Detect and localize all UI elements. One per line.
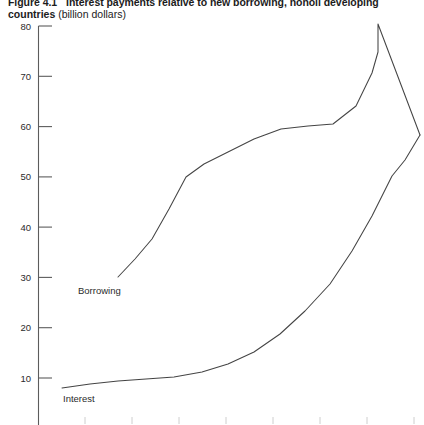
series-line-borrowing xyxy=(118,24,420,277)
y-label-20: 20 xyxy=(20,322,31,333)
line-chart-plot: 80 70 60 50 40 30 20 10 Borrowing Intere… xyxy=(0,0,424,425)
figure-container: Figure 4.1Interest payments relative to … xyxy=(0,0,424,425)
y-label-30: 30 xyxy=(20,272,31,283)
series-line-interest xyxy=(62,135,420,388)
y-label-40: 40 xyxy=(20,222,31,233)
y-label-10: 10 xyxy=(20,373,31,384)
series-label-borrowing: Borrowing xyxy=(78,285,121,296)
y-label-80: 80 xyxy=(20,21,31,32)
x-axis-ticks xyxy=(85,417,414,424)
y-label-60: 60 xyxy=(20,121,31,132)
y-label-70: 70 xyxy=(20,71,31,82)
y-label-50: 50 xyxy=(20,171,31,182)
series-label-interest: Interest xyxy=(63,393,95,404)
y-axis-ticks xyxy=(39,26,53,378)
y-axis-labels: 80 70 60 50 40 30 20 10 xyxy=(20,21,31,384)
